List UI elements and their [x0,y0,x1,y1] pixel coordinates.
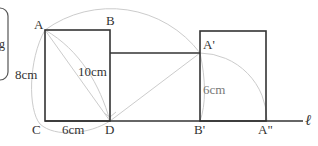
label-B: B [106,13,115,28]
measure-CD: 6cm [62,122,84,137]
label-A: A [34,17,44,32]
label-C: C [32,122,41,137]
label-A-double-prime: A" [258,122,273,137]
label-A-prime: A' [203,37,215,52]
segment-D-A-prime [110,53,200,121]
cropped-note-box: g [0,8,8,80]
curve-A-around-C [32,30,110,133]
measure-A-prime-B-prime: 6cm [203,82,225,97]
measure-AC: 8cm [15,67,37,82]
rotation-diagram: g A B C D A' B' A" ℓ 8cm [0,0,318,146]
label-D: D [105,122,114,137]
construction-lines [32,9,267,133]
measure-AD: 10cm [78,64,107,79]
label-B-prime: B' [194,122,205,137]
label-line-l: ℓ [305,112,311,128]
svg-text:g: g [0,37,5,51]
arc-A-to-A-prime [45,9,200,53]
